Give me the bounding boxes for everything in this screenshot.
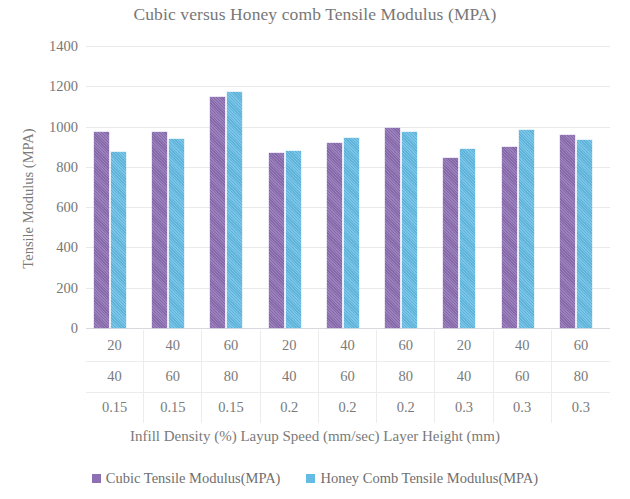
x-axis-tick-label: 60 [202, 330, 260, 361]
bar-honeycomb[interactable] [227, 92, 242, 328]
bar-group [86, 46, 144, 328]
legend-swatch-icon [92, 474, 101, 483]
bar-honeycomb[interactable] [344, 138, 359, 328]
legend-label: Cubic Tensile Modulus(MPA) [106, 470, 281, 487]
x-axis-tick-label: 80 [552, 361, 610, 392]
x-axis-tick-label: 60 [552, 330, 610, 361]
y-axis-tick-label: 1400 [30, 38, 78, 55]
x-axis-tick-label: 0.3 [435, 392, 493, 423]
bar-group [377, 46, 435, 328]
bar-group [261, 46, 319, 328]
x-axis-tick-label: 60 [319, 361, 377, 392]
bar-honeycomb[interactable] [111, 152, 126, 328]
y-axis-tick-label: 600 [30, 199, 78, 216]
bar-honeycomb[interactable] [286, 151, 301, 328]
x-axis-tick-label: 40 [144, 330, 202, 361]
y-axis-tick-label: 1200 [30, 78, 78, 95]
bar-cubic[interactable] [152, 132, 167, 328]
bar-group [144, 46, 202, 328]
bar-cubic[interactable] [94, 132, 109, 328]
x-axis-tick-label: 0.2 [261, 392, 319, 423]
bar-cubic[interactable] [210, 97, 225, 328]
legend-label: Honey Comb Tensile Modulus(MPA) [320, 470, 538, 487]
x-axis-tick-label: 60 [144, 361, 202, 392]
x-axis-tick-label: 80 [377, 361, 435, 392]
bar-honeycomb[interactable] [169, 139, 184, 328]
bar-cubic[interactable] [269, 153, 284, 328]
x-axis-tick-label: 0.2 [377, 392, 435, 423]
y-axis-tick-label: 400 [30, 239, 78, 256]
y-axis-tick-label: 200 [30, 279, 78, 296]
x-axis-tick-label: 0.3 [494, 392, 552, 423]
x-axis-tick-label: 20 [435, 330, 493, 361]
bar-honeycomb[interactable] [519, 130, 534, 328]
x-axis-tick-label: 40 [435, 361, 493, 392]
chart-container: Cubic versus Honey comb Tensile Modulus … [0, 0, 630, 499]
x-axis-tick-label: 40 [86, 361, 144, 392]
x-axis-tick-label: 20 [261, 330, 319, 361]
gridline [86, 328, 610, 329]
y-axis-tick-label: 1000 [30, 118, 78, 135]
bar-group [435, 46, 493, 328]
x-axis-tick-label: 0.15 [86, 392, 144, 423]
x-axis-tick-label: 20 [86, 330, 144, 361]
x-axis-tick-label: 40 [319, 330, 377, 361]
bar-group [202, 46, 260, 328]
x-axis-tick-label: 60 [377, 330, 435, 361]
bar-group [494, 46, 552, 328]
bar-honeycomb[interactable] [402, 132, 417, 328]
x-axis-tick-label: 60 [494, 361, 552, 392]
chart-title: Cubic versus Honey comb Tensile Modulus … [0, 4, 630, 25]
x-axis-label-row: 406080406080406080 [86, 361, 610, 392]
bar-cubic[interactable] [327, 143, 342, 328]
x-axis-tick-label: 40 [494, 330, 552, 361]
bar-cubic[interactable] [385, 128, 400, 328]
x-axis-category-table: 2040602040602040604060804060804060800.15… [86, 330, 610, 424]
x-axis-title: Infill Density (%) Layup Speed (mm/sec) … [0, 428, 630, 445]
x-axis-tick-label: 80 [202, 361, 260, 392]
bar-group [552, 46, 610, 328]
y-axis-tick-label: 0 [30, 320, 78, 337]
legend-item[interactable]: Honey Comb Tensile Modulus(MPA) [306, 470, 538, 487]
x-axis-tick-label: 0.15 [144, 392, 202, 423]
x-axis-tick-label: 0.15 [202, 392, 260, 423]
legend-item[interactable]: Cubic Tensile Modulus(MPA) [92, 470, 281, 487]
bar-honeycomb[interactable] [460, 149, 475, 328]
x-axis-label-row: 0.150.150.150.20.20.20.30.30.3 [86, 392, 610, 423]
x-axis-label-row: 204060204060204060 [86, 330, 610, 361]
legend-swatch-icon [306, 474, 315, 483]
bar-cubic[interactable] [560, 135, 575, 328]
y-axis-tick-label: 800 [30, 158, 78, 175]
x-axis-tick-label: 40 [261, 361, 319, 392]
x-axis-tick-label: 0.2 [319, 392, 377, 423]
x-axis-tick-label: 0.3 [552, 392, 610, 423]
bar-group [319, 46, 377, 328]
chart-legend: Cubic Tensile Modulus(MPA)Honey Comb Ten… [0, 470, 630, 487]
plot-area [86, 46, 610, 328]
bar-cubic[interactable] [443, 158, 458, 328]
bar-honeycomb[interactable] [577, 140, 592, 328]
bar-cubic[interactable] [502, 147, 517, 328]
